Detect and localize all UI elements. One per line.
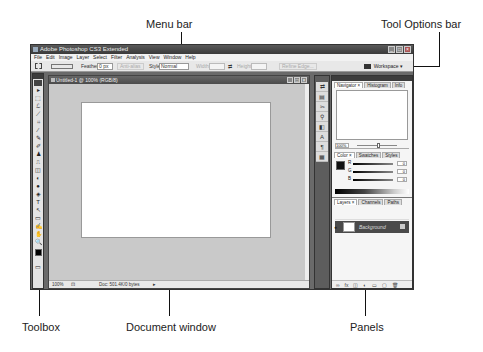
clone-source-icon[interactable]: ◧ (316, 122, 328, 132)
quick-selection-tool-icon[interactable]: ⟋ (34, 111, 43, 118)
menu-view[interactable]: View (149, 54, 160, 61)
menu-help[interactable]: Help (185, 54, 195, 61)
status-menu-arrow-icon[interactable]: ▸ (153, 282, 156, 287)
shape-tool-icon[interactable]: ▭ (34, 215, 43, 222)
close-button[interactable]: × (404, 46, 411, 53)
document-titlebar[interactable]: Untitled-1 @ 100% (RGB/8) _ □ × (49, 76, 309, 84)
tab-histogram[interactable]: Histogram (364, 82, 391, 88)
pen-tool-icon[interactable]: ◈ (34, 191, 43, 198)
channel-b-slider[interactable] (353, 179, 393, 181)
tab-paths[interactable]: Paths (384, 199, 402, 205)
selection-mode-icons[interactable] (51, 64, 73, 69)
width-input[interactable] (209, 63, 225, 70)
hand-tool-icon[interactable]: ✋ (34, 231, 43, 238)
tab-navigator[interactable]: Navigator × (334, 82, 363, 88)
color-ramp[interactable] (335, 189, 409, 194)
gradient-tool-icon[interactable]: ◐ (34, 175, 43, 182)
new-group-icon[interactable]: ▭ (372, 281, 377, 288)
layer-row-background[interactable]: ● Background (335, 221, 409, 233)
crop-tool-icon[interactable]: ⌗ (34, 119, 43, 126)
menu-filter[interactable]: Filter (111, 54, 122, 61)
style-select[interactable]: Normal (159, 63, 189, 70)
panels-callout: Panels (350, 321, 384, 333)
menu-analysis[interactable]: Analysis (126, 54, 145, 61)
workspace-menu[interactable]: Workspace ▾ (374, 63, 403, 70)
layer-style-icon[interactable]: fx (345, 281, 349, 288)
eraser-tool-icon[interactable]: ◫ (34, 167, 43, 174)
tab-styles[interactable]: Styles (382, 152, 400, 158)
doc-maximize-button[interactable]: □ (294, 77, 300, 83)
paragraph-panel-icon[interactable]: ¶ (316, 142, 328, 152)
adjustment-layer-icon[interactable]: ◐ (363, 281, 366, 288)
blur-tool-icon[interactable]: ● (34, 183, 43, 190)
navigator-zoom-row: 100% (335, 142, 409, 149)
photoshop-window: Adobe Photoshop CS3 Extended _ □ × File … (30, 44, 414, 290)
menu-window[interactable]: Window (164, 54, 182, 61)
menu-layer[interactable]: Layer (77, 54, 90, 61)
history-panel-icon[interactable]: ⇄ (316, 82, 328, 92)
menu-image[interactable]: Image (59, 54, 73, 61)
menu-edit[interactable]: Edit (46, 54, 55, 61)
tab-layers[interactable]: Layers × (334, 199, 357, 205)
tab-swatches[interactable]: Swatches (356, 152, 382, 158)
brushes-panel-icon[interactable]: ⚲ (316, 112, 328, 122)
anti-alias-checkbox[interactable]: Anti-alias (117, 63, 144, 70)
eyedropper-tool-icon[interactable]: ⁄ (34, 127, 43, 134)
tab-channels[interactable]: Channels (358, 199, 383, 205)
minimize-button[interactable]: _ (388, 46, 395, 53)
foreground-color-swatch[interactable] (35, 249, 42, 256)
new-layer-icon[interactable]: ▢ (382, 281, 387, 288)
palette-well-icon[interactable] (364, 64, 371, 69)
layer-comps-icon[interactable]: ▦ (316, 152, 328, 162)
notes-tool-icon[interactable]: ✍ (34, 223, 43, 230)
channel-r-label: R (348, 160, 351, 165)
marquee-preset-icon[interactable] (35, 63, 42, 69)
type-tool-icon[interactable]: T (34, 199, 43, 206)
menu-select[interactable]: Select (93, 54, 107, 61)
navigator-preview[interactable] (336, 90, 408, 140)
refine-edge-button[interactable]: Refine Edge... (279, 63, 317, 70)
status-icon[interactable]: ⊡ (71, 282, 75, 287)
doc-minimize-button[interactable]: _ (287, 77, 293, 83)
channel-r-value[interactable]: 0 (397, 161, 407, 166)
doc-close-button[interactable]: × (301, 77, 307, 83)
zoom-tool-icon[interactable]: 🔍 (34, 239, 43, 246)
path-selection-tool-icon[interactable]: ↖ (34, 207, 43, 214)
navigator-zoom-input[interactable]: 100% (335, 143, 349, 148)
layer-mask-icon[interactable]: ◫ (353, 281, 358, 288)
link-layers-icon[interactable]: ∞ (336, 281, 340, 288)
visibility-eye-icon[interactable]: ● (334, 224, 339, 230)
zoom-slider-knob[interactable] (377, 143, 380, 148)
canvas[interactable] (81, 102, 271, 238)
quick-mask-icon[interactable]: ▭ (34, 264, 43, 271)
vertical-scrollbar[interactable] (305, 84, 309, 280)
channel-b-value[interactable]: 0 (397, 177, 407, 182)
move-tool-icon[interactable]: ▸ (34, 87, 43, 94)
clone-stamp-tool-icon[interactable]: ♟ (34, 151, 43, 158)
toolbox-header[interactable] (33, 74, 43, 79)
character-panel-icon[interactable]: A (316, 132, 328, 142)
tab-color[interactable]: Color × (334, 152, 355, 158)
height-input[interactable] (251, 63, 267, 70)
layer-blend-options[interactable] (335, 206, 409, 220)
history-brush-tool-icon[interactable]: ⎍ (34, 159, 43, 166)
menu-bar-callout: Menu bar (146, 18, 192, 30)
healing-brush-tool-icon[interactable]: ✎ (34, 135, 43, 142)
brush-tool-icon[interactable]: ✐ (34, 143, 43, 150)
delete-layer-icon[interactable]: 🗑 (392, 281, 398, 288)
actions-panel-icon[interactable]: ▤ (316, 92, 328, 102)
maximize-button[interactable]: □ (396, 46, 403, 53)
menu-file[interactable]: File (34, 54, 42, 61)
channel-g-value[interactable]: 0 (397, 169, 407, 174)
channel-g-slider[interactable] (353, 171, 393, 173)
foreground-color-box[interactable] (336, 161, 345, 170)
lasso-tool-icon[interactable]: ℒ (34, 103, 43, 110)
tab-info[interactable]: Info (392, 82, 406, 88)
zoom-level[interactable]: 100% (52, 282, 64, 287)
ps-logo-icon[interactable] (34, 80, 42, 86)
swap-icon[interactable]: ⇄ (228, 63, 232, 70)
marquee-tool-icon[interactable]: ⬚ (34, 95, 43, 102)
feather-input[interactable]: 0 px (97, 63, 113, 70)
channel-r-slider[interactable] (353, 163, 393, 165)
tool-presets-icon[interactable]: ✂ (316, 102, 328, 112)
